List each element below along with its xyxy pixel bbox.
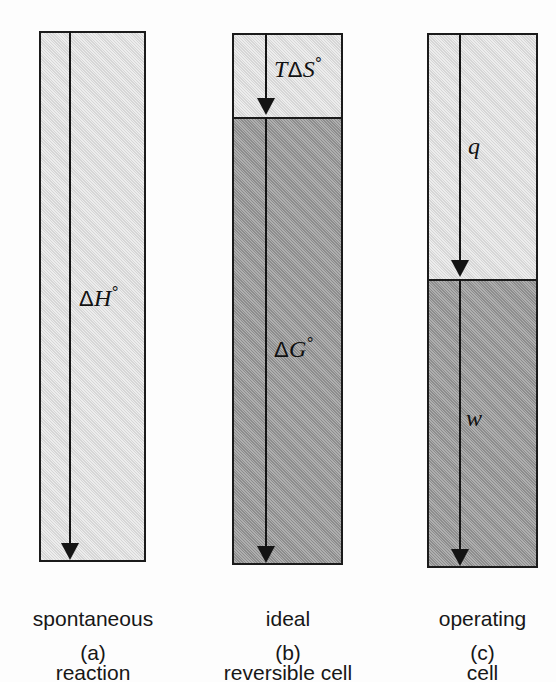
label-delta-h: ΔH° — [79, 283, 119, 312]
label-delta-h-symbol: H — [94, 285, 112, 311]
label-delta-g-degree: ° — [307, 334, 314, 353]
label-t-delta-s-symbol: S — [303, 56, 315, 82]
label-t-delta-s-delta: Δ — [288, 57, 303, 82]
arrow-head-q — [451, 260, 469, 277]
caption-b: ideal reversible cell — [194, 578, 382, 682]
arrow-shaft-w — [459, 279, 461, 552]
caption-c-line1: operating — [389, 605, 556, 632]
label-delta-g-symbol: G — [289, 336, 307, 362]
panel-letter-c: (c) — [389, 641, 556, 665]
arrow-shaft-delta-h — [69, 31, 71, 546]
segment-c-heat — [429, 35, 536, 281]
arrow-head-t-delta-s — [257, 98, 275, 115]
caption-a: spontaneous reaction — [0, 578, 186, 682]
label-t-delta-s-t: T — [274, 56, 288, 82]
panel-letter-b: (b) — [194, 641, 382, 665]
label-q-symbol: q — [468, 133, 480, 159]
label-t-delta-s: TΔS° — [274, 54, 322, 83]
label-t-delta-s-degree: ° — [315, 54, 322, 73]
caption-a-line1: spontaneous — [0, 605, 186, 632]
arrow-head-delta-h — [61, 543, 79, 560]
label-w-symbol: w — [466, 405, 482, 431]
label-delta-h-degree: ° — [112, 283, 119, 302]
divider-b — [234, 117, 341, 119]
label-q: q — [468, 133, 480, 160]
arrow-shaft-delta-g — [265, 117, 267, 549]
bar-b — [232, 33, 343, 565]
label-w: w — [466, 405, 482, 432]
segment-c-work — [429, 281, 536, 568]
caption-c: operating cell — [389, 578, 556, 682]
arrow-shaft-t-delta-s — [265, 33, 267, 101]
arrow-shaft-q — [459, 33, 461, 263]
bar-c — [427, 33, 538, 568]
caption-b-line1: ideal — [194, 605, 382, 632]
panel-letter-a: (a) — [0, 641, 186, 665]
energy-bar-diagram: ΔH° spontaneous reaction (a) TΔS° ΔG° id… — [0, 0, 556, 682]
divider-c — [429, 279, 536, 281]
label-delta-h-delta: Δ — [79, 286, 94, 311]
label-delta-g-delta: Δ — [274, 337, 289, 362]
arrow-head-delta-g — [257, 546, 275, 563]
label-delta-g: ΔG° — [274, 334, 314, 363]
arrow-head-w — [451, 549, 469, 566]
